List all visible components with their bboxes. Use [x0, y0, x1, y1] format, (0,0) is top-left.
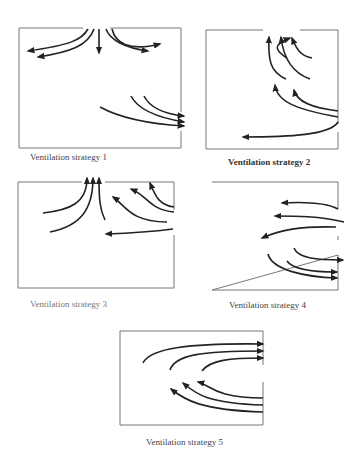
caption-strategy-2: Ventilation strategy 2	[228, 157, 310, 167]
caption-strategy-4: Ventilation strategy 4	[229, 300, 306, 310]
airflow-arrows	[243, 37, 338, 137]
panel-5	[120, 331, 263, 425]
caption-strategy-5: Ventilation strategy 5	[146, 437, 223, 447]
airflow-arrows	[28, 29, 184, 126]
room-frame	[19, 28, 181, 148]
caption-strategy-1: Ventilation strategy 1	[30, 152, 107, 162]
room-frame	[206, 30, 338, 149]
room-frame	[212, 182, 338, 290]
panel-3	[18, 178, 174, 288]
airflow-arrows	[143, 344, 263, 412]
room-frame	[18, 182, 174, 288]
caption-strategy-3: Ventilation strategy 3	[30, 299, 107, 309]
panel-1	[19, 28, 184, 148]
airflow-arrows	[262, 203, 344, 278]
airflow-arrows	[43, 178, 174, 234]
panel-2	[206, 30, 338, 149]
panel-4	[212, 182, 344, 290]
ventilation-diagram	[0, 0, 361, 465]
